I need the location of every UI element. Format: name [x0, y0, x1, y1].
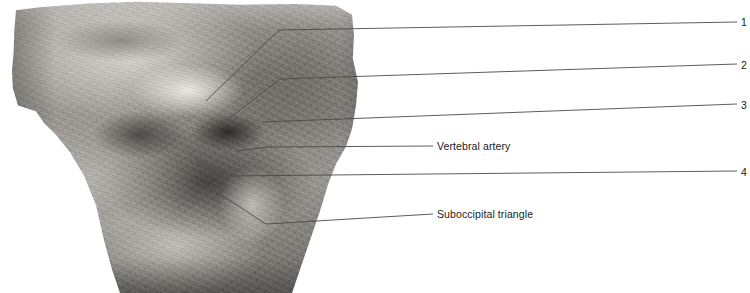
leader-vertebral-artery [236, 146, 433, 151]
leader-4 [197, 161, 737, 176]
leader-3 [262, 104, 737, 122]
callout-number-1: 1 [741, 17, 747, 28]
callout-number-4: 4 [741, 167, 747, 178]
leader-line-overlay [0, 0, 750, 293]
leader-suboccipital-triangle [201, 182, 433, 224]
anatomy-figure: 1 2 3 4 Vertebral artery Suboccipital tr… [0, 0, 750, 293]
label-suboccipital-triangle: Suboccipital triangle [437, 209, 533, 220]
callout-number-2: 2 [741, 60, 747, 71]
label-vertebral-artery: Vertebral artery [437, 141, 510, 152]
callout-number-3: 3 [741, 100, 747, 111]
leader-1 [206, 22, 737, 101]
